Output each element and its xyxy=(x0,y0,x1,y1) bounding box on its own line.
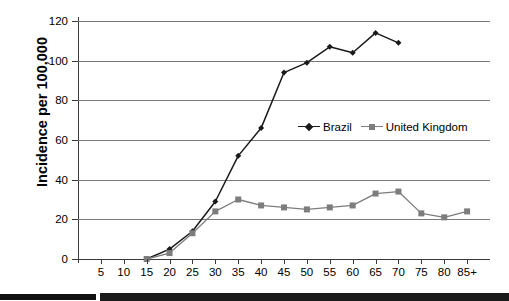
x-axis-tick xyxy=(444,259,445,264)
gridline xyxy=(78,219,490,220)
y-axis-tick-label: 120 xyxy=(6,15,68,27)
y-axis-tick-label: 100 xyxy=(6,55,68,67)
y-axis-tick-label: 80 xyxy=(6,94,68,106)
legend-item-united-kingdom[interactable]: United Kingdom xyxy=(361,121,468,133)
x-axis-tick xyxy=(467,259,468,264)
x-axis-tick xyxy=(307,259,308,264)
chart-figure: Incidence per 100,000 020406080100120 Br… xyxy=(0,0,509,301)
y-axis-tick xyxy=(72,61,78,62)
gridline xyxy=(78,140,490,141)
y-axis-tick-label: 40 xyxy=(6,174,68,186)
x-axis-tick xyxy=(170,259,171,264)
y-axis-tick xyxy=(72,21,78,22)
y-axis-tick-label: 20 xyxy=(6,213,68,225)
gridline xyxy=(78,21,490,22)
y-axis-tick xyxy=(72,259,78,260)
gridline xyxy=(78,180,490,181)
x-axis-tick xyxy=(147,259,148,264)
x-axis-tick xyxy=(353,259,354,264)
chart-legend: BrazilUnited Kingdom xyxy=(296,117,470,136)
x-axis-tick xyxy=(376,259,377,264)
legend-item-brazil[interactable]: Brazil xyxy=(298,121,352,133)
legend-label: United Kingdom xyxy=(386,121,468,133)
legend-diamond-marker-icon xyxy=(298,122,320,131)
scan-bar-right-segment xyxy=(100,293,509,301)
scan-bar-left-segment xyxy=(0,294,96,300)
x-axis-tick xyxy=(421,259,422,264)
y-axis-tick-label: 60 xyxy=(6,134,68,146)
plot-area xyxy=(78,21,490,259)
x-axis-tick xyxy=(284,259,285,264)
y-axis-tick-labels: 020406080100120 xyxy=(0,0,68,301)
x-axis-tick xyxy=(101,259,102,264)
x-axis-tick xyxy=(215,259,216,264)
x-axis-tick xyxy=(398,259,399,264)
x-axis-tick xyxy=(238,259,239,264)
y-axis-tick-label: 0 xyxy=(6,253,68,265)
gridline xyxy=(78,100,490,101)
y-axis-tick xyxy=(72,100,78,101)
y-axis-tick xyxy=(72,140,78,141)
legend-label: Brazil xyxy=(323,121,352,133)
gridline xyxy=(78,61,490,62)
y-axis-tick xyxy=(72,219,78,220)
x-axis-tick-label: 85+ xyxy=(452,266,482,278)
x-axis-tick xyxy=(261,259,262,264)
x-axis-tick xyxy=(330,259,331,264)
scan-artifact-bar xyxy=(0,292,509,301)
legend-square-marker-icon xyxy=(361,122,383,131)
y-axis-tick xyxy=(72,180,78,181)
x-axis-tick xyxy=(192,259,193,264)
x-axis-tick xyxy=(124,259,125,264)
